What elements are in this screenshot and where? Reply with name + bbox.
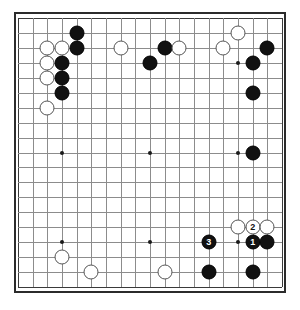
stone-white[interactable] (84, 265, 99, 280)
stone-white[interactable] (40, 55, 55, 70)
stone-white[interactable] (113, 40, 128, 55)
stone-white[interactable] (55, 40, 70, 55)
stone-white-move-2[interactable]: 2 (245, 220, 260, 235)
stone-white[interactable] (231, 220, 246, 235)
stone-black-move-1[interactable]: 1 (245, 235, 260, 250)
stone-white[interactable] (172, 40, 187, 55)
move-number-label: 3 (202, 236, 215, 249)
move-number-label: 2 (246, 221, 259, 234)
stone-white[interactable] (40, 100, 55, 115)
stone-black[interactable] (69, 40, 84, 55)
stone-white[interactable] (260, 220, 275, 235)
stone-white[interactable] (40, 70, 55, 85)
stone-black[interactable] (55, 55, 70, 70)
stones-layer: 312 (16, 14, 284, 291)
stone-black[interactable] (260, 235, 275, 250)
stone-black[interactable] (69, 25, 84, 40)
stone-black[interactable] (55, 70, 70, 85)
stone-black[interactable] (260, 40, 275, 55)
move-number-label: 1 (246, 236, 259, 249)
go-diagram: 312 (0, 0, 300, 310)
stone-black[interactable] (143, 55, 158, 70)
stone-black-move-3[interactable]: 3 (201, 235, 216, 250)
stone-black[interactable] (245, 265, 260, 280)
stone-white[interactable] (40, 40, 55, 55)
stone-black[interactable] (245, 85, 260, 100)
stone-black[interactable] (201, 265, 216, 280)
stone-black[interactable] (157, 40, 172, 55)
stone-white[interactable] (216, 40, 231, 55)
go-board[interactable]: 312 (14, 12, 286, 293)
stone-black[interactable] (245, 55, 260, 70)
stone-white[interactable] (55, 250, 70, 265)
stone-white[interactable] (231, 25, 246, 40)
stone-white[interactable] (157, 265, 172, 280)
stone-black[interactable] (55, 85, 70, 100)
stone-black[interactable] (245, 145, 260, 160)
